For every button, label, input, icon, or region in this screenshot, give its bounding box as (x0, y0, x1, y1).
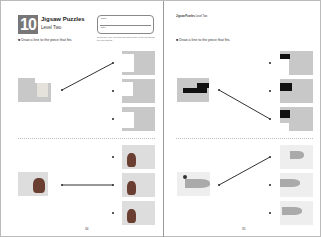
answer-lines (1, 1, 321, 237)
workbook-spread: 10 Jigsaw Puzzles Level Two Name Date To… (0, 0, 321, 237)
